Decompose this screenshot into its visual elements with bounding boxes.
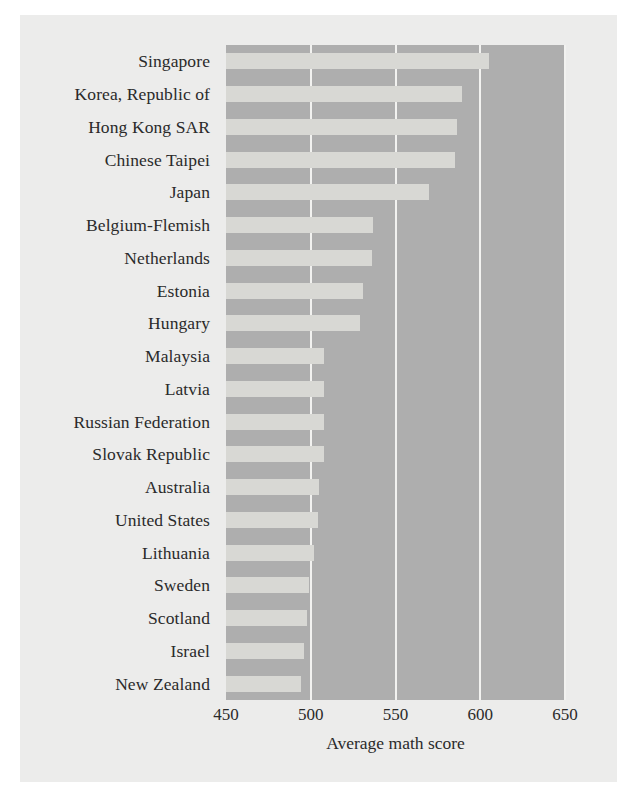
bar[interactable]: [226, 315, 360, 331]
bar-row[interactable]: [226, 152, 565, 168]
y-axis-label: Australia: [145, 479, 210, 495]
bar-row[interactable]: [226, 414, 565, 430]
bar-row[interactable]: [226, 217, 565, 233]
gridline-600: [479, 45, 481, 700]
bar[interactable]: [226, 381, 324, 397]
bar-row[interactable]: [226, 577, 565, 593]
y-axis-label: Russian Federation: [74, 414, 210, 430]
y-axis-label: Sweden: [154, 577, 210, 593]
y-axis-label: Hungary: [148, 315, 210, 331]
bar-row[interactable]: [226, 119, 565, 135]
bar[interactable]: [226, 283, 363, 299]
y-axis-label: Japan: [170, 184, 210, 200]
bar[interactable]: [226, 86, 462, 102]
x-tick-550: 550: [383, 705, 409, 725]
bar-row[interactable]: [226, 479, 565, 495]
y-axis-label: Hong Kong SAR: [88, 119, 210, 135]
bar-row[interactable]: [226, 446, 565, 462]
bar-row[interactable]: [226, 184, 565, 200]
y-axis-label: Estonia: [157, 283, 210, 299]
y-axis-label: Netherlands: [124, 250, 210, 266]
bar[interactable]: [226, 184, 429, 200]
bar-row[interactable]: [226, 676, 565, 692]
gridline-500: [310, 45, 312, 700]
bar[interactable]: [226, 610, 307, 626]
x-tick-500: 500: [298, 705, 324, 725]
bar[interactable]: [226, 676, 301, 692]
bar[interactable]: [226, 414, 324, 430]
figure-panel: SingaporeKorea, Republic ofHong Kong SAR…: [20, 15, 617, 782]
y-axis-label: Korea, Republic of: [75, 86, 210, 102]
bar[interactable]: [226, 53, 489, 69]
y-axis-label: Chinese Taipei: [105, 152, 210, 168]
bar[interactable]: [226, 479, 319, 495]
bar-row[interactable]: [226, 545, 565, 561]
y-axis-label: Singapore: [138, 53, 210, 69]
y-axis-label: Malaysia: [145, 348, 210, 364]
y-axis-country-labels: SingaporeKorea, Republic ofHong Kong SAR…: [20, 45, 220, 700]
bar[interactable]: [226, 348, 324, 364]
y-axis-label: Latvia: [165, 381, 210, 397]
bar-row[interactable]: [226, 283, 565, 299]
bar[interactable]: [226, 545, 314, 561]
y-axis-label: Slovak Republic: [92, 446, 210, 462]
y-axis-label: Israel: [171, 643, 210, 659]
bar-row[interactable]: [226, 610, 565, 626]
bar-row[interactable]: [226, 643, 565, 659]
plot-area: [226, 45, 565, 700]
bar[interactable]: [226, 446, 324, 462]
gridline-550: [395, 45, 397, 700]
bar-row[interactable]: [226, 250, 565, 266]
y-axis-label: Lithuania: [142, 545, 210, 561]
bar[interactable]: [226, 643, 304, 659]
bar-row[interactable]: [226, 381, 565, 397]
bar[interactable]: [226, 512, 318, 528]
x-tick-650: 650: [552, 705, 578, 725]
bar[interactable]: [226, 250, 372, 266]
x-tick-600: 600: [468, 705, 494, 725]
bar-row[interactable]: [226, 512, 565, 528]
y-axis-label: Scotland: [148, 610, 210, 626]
y-axis-label: Belgium-Flemish: [86, 217, 210, 233]
bar-row[interactable]: [226, 315, 565, 331]
bar-row[interactable]: [226, 348, 565, 364]
x-tick-450: 450: [213, 705, 239, 725]
bar-row[interactable]: [226, 86, 565, 102]
bar[interactable]: [226, 577, 309, 593]
y-axis-label: New Zealand: [115, 676, 210, 692]
bar[interactable]: [226, 119, 457, 135]
bar[interactable]: [226, 152, 455, 168]
y-axis-label: United States: [115, 512, 210, 528]
x-axis-title: Average math score: [226, 733, 565, 754]
gridline-650: [564, 45, 566, 700]
bar[interactable]: [226, 217, 373, 233]
bar-row[interactable]: [226, 53, 565, 69]
x-axis-tick-labels: 450500550600650: [226, 705, 565, 731]
